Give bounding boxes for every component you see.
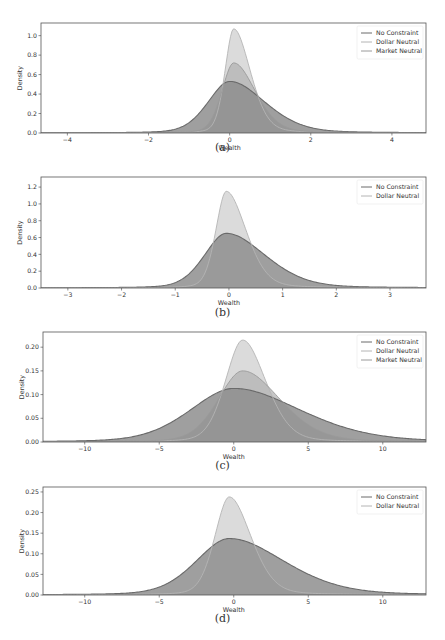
- x-tick-label: 2: [334, 291, 338, 298]
- x-tick-label: −5: [155, 445, 164, 452]
- density-chart-c: −10−505100.000.050.100.150.20WealthDensi…: [0, 320, 445, 480]
- y-tick-label: 0.25: [25, 488, 39, 495]
- legend-item-label: No Constraint: [376, 338, 419, 345]
- x-tick-label: 3: [388, 291, 392, 298]
- x-tick-label: −10: [78, 598, 91, 605]
- histogram-fill-no-constraint: [41, 233, 426, 288]
- y-tick-label: 1.2: [27, 183, 37, 190]
- y-axis-label: Density: [16, 220, 24, 245]
- legend-item-label: No Constraint: [376, 493, 419, 500]
- figure-panel-c: −10−505100.000.050.100.150.20WealthDensi…: [0, 320, 445, 480]
- x-tick-label: 5: [306, 598, 310, 605]
- y-axis-label: Density: [18, 375, 26, 400]
- x-tick-label: −5: [155, 598, 164, 605]
- y-tick-label: 0.05: [25, 571, 39, 578]
- density-chart-a: −4−20240.00.20.40.60.81.0WealthDensityNo…: [0, 0, 445, 160]
- y-tick-label: 0.20: [25, 509, 39, 516]
- y-tick-label: 0.05: [25, 414, 39, 421]
- legend: No ConstraintDollar NeutralMarket Neutra…: [357, 26, 423, 59]
- y-tick-label: 0.15: [25, 367, 39, 374]
- figure-panel-a: −4−20240.00.20.40.60.81.0WealthDensityNo…: [0, 0, 445, 160]
- y-tick-label: 0.2: [27, 267, 37, 274]
- caption-c: (c): [0, 459, 445, 472]
- legend-item-label: Dollar Neutral: [376, 502, 419, 509]
- legend-item-label: Market Neutral: [376, 356, 422, 363]
- y-tick-label: 0.15: [25, 529, 39, 536]
- y-tick-label: 1.0: [27, 32, 37, 39]
- plot-area: [41, 191, 426, 288]
- y-tick-label: 1.0: [27, 200, 37, 207]
- x-tick-label: 0: [232, 598, 236, 605]
- y-tick-label: 0.0: [27, 284, 37, 291]
- legend-item-label: Dollar Neutral: [376, 192, 419, 199]
- x-tick-label: −1: [171, 291, 180, 298]
- x-tick-label: −3: [63, 291, 72, 298]
- y-tick-label: 0.00: [25, 438, 39, 445]
- x-tick-label: 0: [232, 445, 236, 452]
- y-axis-label: Density: [16, 66, 24, 91]
- y-tick-label: 0.4: [27, 90, 37, 97]
- legend-item-label: Dollar Neutral: [376, 347, 419, 354]
- x-tick-label: 1: [281, 291, 285, 298]
- x-tick-label: 0: [227, 291, 231, 298]
- y-tick-label: 0.6: [27, 234, 37, 241]
- density-chart-b: −3−2−101230.00.20.40.60.81.01.2WealthDen…: [0, 160, 445, 320]
- x-tick-label: 10: [379, 598, 387, 605]
- x-tick-label: −10: [78, 445, 91, 452]
- legend: No ConstraintDollar Neutral: [357, 180, 423, 204]
- figure-panel-d: −10−505100.000.050.100.150.200.25WealthD…: [0, 480, 445, 640]
- y-tick-label: 0.20: [25, 343, 39, 350]
- x-tick-label: 5: [306, 445, 310, 452]
- legend: No ConstraintDollar Neutral: [357, 490, 423, 514]
- y-tick-label: 0.4: [27, 251, 37, 258]
- y-axis-label: Density: [18, 529, 26, 554]
- legend: No ConstraintDollar NeutralMarket Neutra…: [357, 335, 423, 368]
- y-tick-label: 0.2: [27, 110, 37, 117]
- y-tick-label: 0.10: [25, 550, 39, 557]
- y-tick-label: 0.0: [27, 129, 37, 136]
- caption-a: (a): [0, 141, 445, 154]
- y-tick-label: 0.6: [27, 71, 37, 78]
- legend-item-label: No Constraint: [376, 29, 419, 36]
- legend-item-label: Dollar Neutral: [376, 38, 419, 45]
- histogram-fill-no-constraint: [41, 81, 426, 133]
- caption-b: (b): [0, 306, 445, 319]
- y-tick-label: 0.10: [25, 391, 39, 398]
- x-tick-label: 10: [379, 445, 387, 452]
- y-tick-label: 0.8: [27, 217, 37, 224]
- legend-item-label: No Constraint: [376, 183, 419, 190]
- y-tick-label: 0.00: [25, 591, 39, 598]
- legend-item-label: Market Neutral: [376, 47, 422, 54]
- figure-panel-b: −3−2−101230.00.20.40.60.81.01.2WealthDen…: [0, 160, 445, 320]
- histogram-fill-no-constraint: [43, 539, 426, 595]
- caption-d: (d): [0, 612, 445, 625]
- y-tick-label: 0.8: [27, 51, 37, 58]
- x-tick-label: −2: [117, 291, 126, 298]
